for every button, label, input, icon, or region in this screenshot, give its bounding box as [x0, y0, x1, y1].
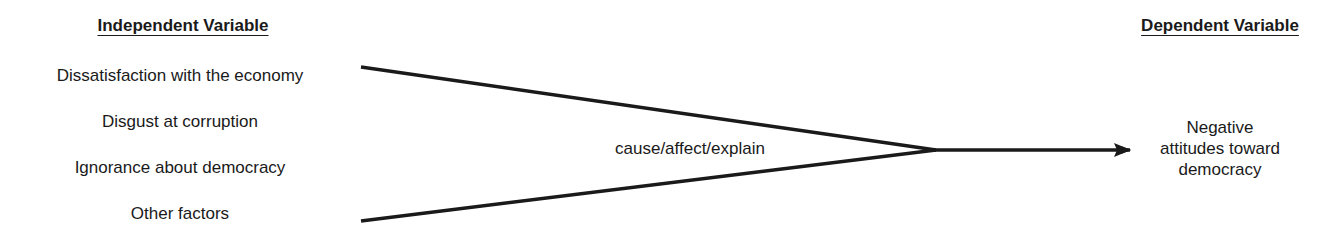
dv-line-1: Negative — [1120, 117, 1320, 138]
dv-line-2: attitudes toward — [1120, 138, 1320, 159]
dependent-variable-text: Negative attitudes toward democracy — [1120, 117, 1320, 180]
upper-converging-line — [361, 67, 936, 150]
dependent-variable-heading: Dependent Variable — [1111, 16, 1329, 36]
dv-line-3: democracy — [1120, 159, 1320, 180]
relation-label: cause/affect/explain — [570, 139, 810, 159]
lower-converging-line — [361, 150, 936, 221]
